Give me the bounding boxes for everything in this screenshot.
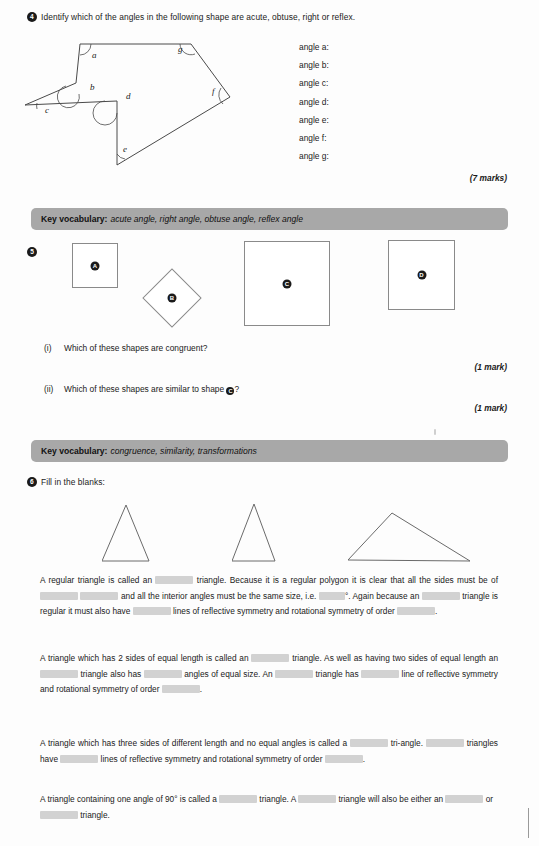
question-number-badge: 5	[27, 247, 37, 257]
angle-arc-d	[93, 101, 117, 125]
q5-part-ii-numeral: (ii)	[44, 384, 64, 394]
q5-part-ii-marks: (1 mark)	[330, 403, 507, 413]
shape-c-square: C	[244, 241, 330, 326]
answer-blank-3[interactable]	[144, 670, 182, 678]
answer-blank-4[interactable]	[40, 811, 78, 819]
answer-blank-2[interactable]	[298, 795, 336, 803]
answer-blank-1[interactable]	[251, 654, 289, 662]
answer-line-f[interactable]: angle f:	[299, 129, 329, 147]
q5-part-ii-text-after: ?	[234, 384, 239, 394]
question-number-badge: 6	[27, 477, 37, 487]
shape-label-d: D	[417, 271, 426, 280]
vertex-label-b: b	[90, 82, 95, 92]
fill-blank-paragraph-isosceles: A triangle which has 2 sides of equal le…	[40, 651, 498, 698]
answer-blank-2[interactable]	[40, 670, 78, 678]
answer-blank-4[interactable]	[275, 670, 313, 678]
key-vocabulary-bar-congruence: Key vocabulary: congruence, similarity, …	[31, 440, 508, 462]
page-margin-tick	[528, 808, 529, 838]
q5-part-ii: (ii)Which of these shapes are similar to…	[44, 384, 239, 395]
q5-part-i-numeral: (i)	[44, 343, 64, 353]
q4-answer-list: angle a: angle b: angle c: angle d: angl…	[299, 38, 329, 165]
key-vocabulary-label: Key vocabulary:	[41, 446, 107, 456]
q5-part-i-marks: (1 mark)	[330, 362, 507, 372]
answer-blank-6[interactable]	[162, 685, 200, 693]
shape-d-square: D	[388, 240, 455, 310]
answer-blank-3[interactable]	[60, 755, 98, 763]
answer-blank-1[interactable]	[155, 576, 193, 584]
question-6-prompt: Fill in the blanks:	[41, 477, 105, 487]
fill-blank-paragraph-scalene: A triangle which has three sides of diff…	[40, 736, 498, 767]
answer-blank-4[interactable]	[319, 592, 345, 600]
vertex-label-d: d	[126, 91, 131, 101]
answer-blank-1[interactable]	[219, 795, 257, 803]
q5-part-i-text: Which of these shapes are congruent?	[64, 343, 207, 353]
scalene-triangle-figure	[348, 503, 474, 565]
key-vocabulary-label: Key vocabulary:	[41, 214, 107, 224]
answer-blank-2[interactable]	[40, 592, 78, 600]
vertex-label-a: a	[92, 50, 97, 60]
answer-blank-5[interactable]	[361, 670, 399, 678]
answer-line-b[interactable]: angle b:	[299, 56, 329, 74]
answer-blank-4[interactable]	[325, 755, 363, 763]
answer-line-a[interactable]: angle a:	[299, 38, 329, 56]
answer-blank-2[interactable]	[426, 739, 464, 747]
fill-blank-paragraph-equilateral: A regular triangle is called an triangle…	[40, 573, 498, 620]
q5-part-ii-text-before: Which of these shapes are similar to sha…	[64, 384, 226, 394]
key-vocabulary-terms: acute angle, right angle, obtuse angle, …	[110, 214, 303, 224]
answer-blank-3[interactable]	[445, 795, 483, 803]
isosceles-triangle-figure	[232, 503, 280, 565]
shape-b-square-rotated: B	[142, 268, 201, 327]
answer-blank-5[interactable]	[422, 592, 460, 600]
vertex-label-e: e	[123, 144, 127, 154]
answer-line-e[interactable]: angle e:	[299, 111, 329, 129]
key-vocabulary-bar-angles: Key vocabulary: acute angle, right angle…	[31, 208, 508, 230]
question-5-number: 5	[27, 247, 37, 257]
shape-a-square: A	[72, 243, 118, 288]
answer-blank-1[interactable]	[350, 739, 388, 747]
answer-blank-7[interactable]	[397, 607, 435, 615]
equilateral-triangle-figure	[102, 503, 152, 565]
answer-line-c[interactable]: angle c:	[299, 74, 329, 92]
shape-label-b: B	[168, 294, 177, 303]
worksheet-page: 4Identify which of the angles in the fol…	[0, 0, 539, 846]
angle-arc-a	[80, 44, 91, 55]
answer-line-d[interactable]: angle d:	[299, 93, 329, 111]
q4-angle-shape-diagram: a b c d e f g	[0, 0, 280, 185]
q4-marks: (7 marks)	[330, 173, 507, 183]
q5-part-i: (i)Which of these shapes are congruent?	[44, 343, 207, 353]
fill-blank-paragraph-right-angled: A triangle containing one angle of 90° i…	[40, 792, 498, 823]
answer-blank-6[interactable]	[133, 607, 171, 615]
vertex-label-g: g	[178, 44, 183, 54]
angle-arc-b	[57, 86, 79, 108]
answer-blank-3[interactable]	[80, 592, 118, 600]
shape-label-a: A	[91, 261, 100, 270]
shape-label-c: C	[283, 279, 292, 288]
scan-artifact	[434, 429, 436, 435]
vertex-label-f: f	[212, 86, 216, 96]
angle-arc-e	[117, 154, 125, 159]
key-vocabulary-terms: congruence, similarity, transformations	[110, 446, 256, 456]
vertex-label-c: c	[45, 105, 49, 115]
answer-line-g[interactable]: angle g:	[299, 147, 329, 165]
question-6-heading: 6Fill in the blanks:	[27, 476, 327, 487]
